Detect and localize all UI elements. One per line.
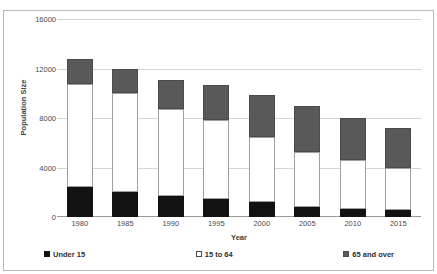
bar-column-1985[interactable]: [112, 19, 138, 217]
bar-segment-65-and-over[interactable]: [67, 59, 93, 84]
bar-segment-under-15[interactable]: [203, 199, 229, 217]
plot-wrapper: Population Size 16000 12000 8000 4000 0: [4, 11, 433, 270]
bar-segment-15-to-64[interactable]: [112, 93, 138, 192]
bar-segment-under-15[interactable]: [385, 210, 411, 217]
x-tick-label: 2005: [294, 219, 320, 228]
bar-column-1980[interactable]: [67, 19, 93, 217]
bar-segment-65-and-over[interactable]: [112, 69, 138, 93]
bar-segment-under-15[interactable]: [112, 192, 138, 217]
y-tick-label: 12000: [16, 64, 56, 73]
bar-segment-65-and-over[interactable]: [294, 106, 320, 151]
bar-segment-under-15[interactable]: [249, 202, 275, 217]
bar-column-2015[interactable]: [385, 19, 411, 217]
bar-column-2000[interactable]: [249, 19, 275, 217]
bar-segment-under-15[interactable]: [340, 209, 366, 217]
x-tick-label: 1990: [158, 219, 184, 228]
plot-area: [57, 19, 421, 217]
bar-column-2005[interactable]: [294, 19, 320, 217]
chart-legend: Under 15 15 to 64 65 and over: [44, 247, 394, 261]
filled-black-square-icon: [44, 251, 50, 257]
bar-column-2010[interactable]: [340, 19, 366, 217]
bar-segment-15-to-64[interactable]: [67, 84, 93, 187]
y-tick-label: 4000: [16, 163, 56, 172]
bar-segment-65-and-over[interactable]: [249, 95, 275, 137]
legend-label: 65 and over: [352, 250, 394, 259]
cut-off-caption: [0, 0, 437, 9]
bar-segment-15-to-64[interactable]: [294, 152, 320, 207]
legend-label: Under 15: [53, 250, 85, 259]
x-tick-label: 2000: [249, 219, 275, 228]
bar-column-1990[interactable]: [158, 19, 184, 217]
x-tick-label: 2010: [340, 219, 366, 228]
bar-segment-65-and-over[interactable]: [203, 85, 229, 121]
bar-segment-65-and-over[interactable]: [340, 118, 366, 160]
bar-segment-under-15[interactable]: [67, 187, 93, 217]
x-axis-tick-labels: 1980 1985 1990 1995 2000 2005 2010 2015: [57, 219, 421, 233]
bar-segment-under-15[interactable]: [158, 196, 184, 217]
x-axis-title: Year: [57, 233, 421, 242]
bar-segment-15-to-64[interactable]: [385, 168, 411, 210]
y-tick-label: 0: [16, 213, 56, 222]
filled-gray-square-icon: [343, 251, 349, 257]
bar-group-container: [57, 19, 421, 217]
bar-segment-15-to-64[interactable]: [249, 137, 275, 202]
legend-item-15-to-64[interactable]: 15 to 64: [196, 250, 233, 259]
x-tick-label: 2015: [385, 219, 411, 228]
legend-item-under-15[interactable]: Under 15: [44, 250, 85, 259]
chart-screenshot: Population Size 16000 12000 8000 4000 0: [0, 0, 437, 274]
x-tick-label: 1995: [203, 219, 229, 228]
bar-column-1995[interactable]: [203, 19, 229, 217]
outlined-white-square-icon: [196, 251, 202, 257]
y-axis-tick-labels: 16000 12000 8000 4000 0: [18, 11, 56, 270]
legend-label: 15 to 64: [205, 250, 233, 259]
bar-segment-15-to-64[interactable]: [340, 160, 366, 209]
bar-segment-under-15[interactable]: [294, 207, 320, 217]
bar-segment-65-and-over[interactable]: [158, 80, 184, 110]
bar-segment-15-to-64[interactable]: [203, 120, 229, 199]
bar-segment-65-and-over[interactable]: [385, 128, 411, 168]
y-tick-label: 8000: [16, 114, 56, 123]
chart-frame: Population Size 16000 12000 8000 4000 0: [3, 10, 434, 271]
bar-segment-15-to-64[interactable]: [158, 109, 184, 196]
y-tick-label: 16000: [16, 15, 56, 24]
x-tick-label: 1985: [112, 219, 138, 228]
x-tick-label: 1980: [67, 219, 93, 228]
legend-item-65-and-over[interactable]: 65 and over: [343, 250, 394, 259]
